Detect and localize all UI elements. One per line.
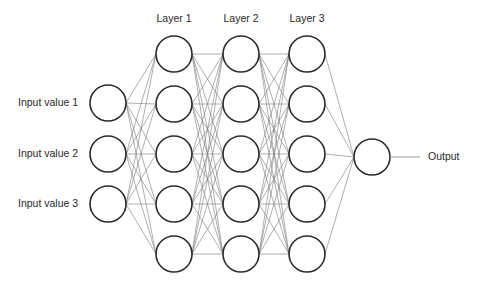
input-neuron-2: [90, 136, 126, 172]
output-label: Output: [428, 150, 460, 162]
input-label-1: Input value 1: [18, 96, 78, 108]
layer2-neuron-4: [223, 186, 259, 222]
layer2-neuron-1: [223, 36, 259, 72]
layer2-neuron-2: [223, 86, 259, 122]
layer3-neuron-5: [289, 236, 325, 272]
input-label-3: Input value 3: [18, 197, 78, 209]
input-neuron-1: [90, 85, 126, 121]
connection-line: [325, 104, 354, 157]
connection-line: [325, 154, 354, 157]
connection-line: [325, 157, 354, 254]
layer1-neuron-5: [156, 236, 192, 272]
connection-line: [126, 54, 156, 204]
layer-2-label: Layer 2: [223, 12, 258, 24]
input-label-2: Input value 2: [18, 147, 78, 159]
layer1-neuron-3: [156, 136, 192, 172]
layer3-neuron-3: [289, 136, 325, 172]
layer2-neuron-3: [223, 136, 259, 172]
connection-line: [325, 157, 354, 204]
connection-line: [126, 54, 156, 103]
layer1-neuron-4: [156, 186, 192, 222]
layer-3-label: Layer 3: [289, 12, 324, 24]
neural-network-diagram: [0, 0, 479, 290]
output-neuron-1: [354, 139, 390, 175]
layer3-neuron-2: [289, 86, 325, 122]
layer1-neuron-1: [156, 36, 192, 72]
connection-line: [126, 204, 156, 254]
layer3-neuron-4: [289, 186, 325, 222]
input-neuron-3: [90, 186, 126, 222]
layer2-neuron-5: [223, 236, 259, 272]
layer-1-label: Layer 1: [156, 12, 191, 24]
connection-line: [325, 54, 354, 157]
layer1-neuron-2: [156, 86, 192, 122]
layer3-neuron-1: [289, 36, 325, 72]
